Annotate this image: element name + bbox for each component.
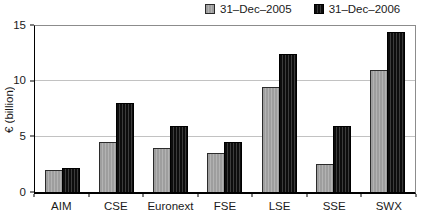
y-axis: 051015: [0, 25, 34, 192]
bar-groups: [35, 26, 415, 192]
bar-cse-2006: [116, 103, 134, 192]
bar-sse-2005: [316, 164, 334, 192]
x-tick-mark-5: [306, 194, 307, 197]
x-tick-mark-3: [197, 194, 198, 197]
x-tick-mark-7: [416, 194, 417, 197]
x-label-cse: CSE: [89, 200, 144, 212]
bar-lse-2006: [279, 54, 297, 192]
y-tick-label-0: 0: [20, 186, 26, 198]
legend-swatch-2005-icon: [205, 4, 215, 14]
x-axis-ticks: [34, 194, 416, 197]
bar-swx-2006: [387, 32, 405, 192]
legend: 31–Dec–2005 31–Dec–2006: [205, 3, 400, 15]
bar-sse-2006: [333, 126, 351, 192]
legend-label-2006: 31–Dec–2006: [329, 3, 401, 15]
bar-group-lse: [252, 26, 306, 192]
x-label-lse: LSE: [252, 200, 307, 212]
bar-aim-2006: [62, 168, 80, 192]
x-tick-mark-1: [88, 194, 89, 197]
bar-group-cse: [89, 26, 143, 192]
x-label-fse: FSE: [198, 200, 253, 212]
bar-fse-2006: [224, 142, 242, 192]
x-label-euronext: Euronext: [143, 200, 198, 212]
y-tick-label-15: 15: [13, 19, 26, 31]
bar-fse-2005: [207, 153, 225, 192]
bar-group-aim: [35, 26, 89, 192]
legend-item-2005: 31–Dec–2005: [205, 3, 292, 15]
x-axis-labels: AIMCSEEuronextFSELSESSESWX: [34, 200, 416, 212]
x-tick-mark-0: [34, 194, 35, 197]
bar-group-swx: [361, 26, 415, 192]
bar-euronext-2006: [170, 126, 188, 192]
x-tick-mark-2: [143, 194, 144, 197]
bar-swx-2005: [370, 70, 388, 192]
legend-item-2006: 31–Dec–2006: [314, 3, 401, 15]
y-tick-label-10: 10: [13, 75, 26, 87]
bar-group-fse: [198, 26, 252, 192]
x-tick-mark-4: [252, 194, 253, 197]
x-tick-mark-6: [361, 194, 362, 197]
x-label-aim: AIM: [34, 200, 89, 212]
legend-label-2005: 31–Dec–2005: [220, 3, 292, 15]
y-tick-label-5: 5: [20, 131, 26, 143]
x-label-swx: SWX: [361, 200, 416, 212]
legend-swatch-2006-icon: [314, 4, 324, 14]
bar-cse-2005: [99, 142, 117, 192]
bar-chart: 31–Dec–2005 31–Dec–2006 € (billion) 0510…: [0, 0, 421, 217]
plot-area: [34, 25, 416, 194]
x-label-sse: SSE: [307, 200, 362, 212]
bar-group-sse: [306, 26, 360, 192]
bar-aim-2005: [45, 170, 63, 192]
bar-group-euronext: [144, 26, 198, 192]
bar-lse-2005: [262, 87, 280, 192]
bar-euronext-2005: [153, 148, 171, 192]
